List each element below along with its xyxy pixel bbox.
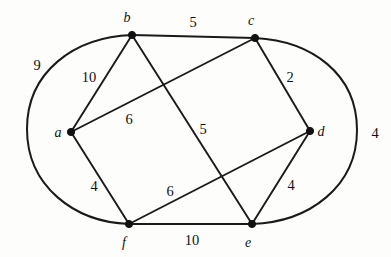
edge-b-c: [132, 35, 255, 38]
edge-weight-c-d: 2: [286, 69, 293, 85]
vertex-dot-b: [128, 31, 135, 38]
edge-weight-b-c: 5: [189, 14, 196, 30]
vertex-label-b: b: [124, 10, 131, 25]
straight-edges: [71, 35, 310, 224]
edge-weight-a-c: 6: [125, 111, 132, 127]
edge-a-f: [71, 132, 129, 224]
vertex-dot-e: [248, 220, 255, 227]
edge-b-e: [132, 35, 252, 224]
vertex-label-d: d: [318, 124, 326, 139]
vertex-dot-a: [67, 128, 74, 135]
vertex-labels: a b c d e f: [55, 10, 326, 250]
edge-f-d: [129, 131, 310, 224]
graph-diagram: a b c d e f 5 10 6 5 2 4 6 4 10 9 4: [0, 0, 391, 257]
graph-canvas: a b c d e f 5 10 6 5 2 4 6 4 10 9 4: [0, 0, 391, 257]
edge-weight-a-b: 10: [82, 69, 97, 85]
vertex-dot-d: [306, 127, 313, 134]
vertex-dot-c: [251, 34, 258, 41]
edge-c-d: [255, 38, 310, 131]
edge-weight-labels: 5 10 6 5 2 4 6 4 10 9 4: [33, 14, 379, 248]
vertex-label-e: e: [245, 235, 251, 250]
edge-arc-c-e: [252, 38, 357, 224]
edge-weight-d-e: 4: [287, 177, 295, 193]
vertex-label-c: c: [248, 13, 255, 28]
vertex-label-a: a: [55, 125, 62, 140]
vertex-label-f: f: [122, 235, 128, 250]
vertex-dots: [67, 31, 313, 227]
edge-weight-b-e: 5: [199, 121, 206, 137]
vertex-dot-f: [125, 220, 132, 227]
edge-weight-b-f-arc: 9: [33, 57, 40, 73]
edge-arc-b-f: [27, 35, 132, 224]
edge-weight-f-e: 10: [185, 232, 200, 248]
edge-weight-f-d: 6: [166, 183, 173, 199]
edge-weight-c-e-arc: 4: [371, 125, 379, 141]
edge-weight-a-f: 4: [90, 178, 98, 194]
